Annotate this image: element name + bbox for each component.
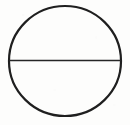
circle-diameter-figure: Circle with horizontal diameter (0, 0, 130, 125)
figure-canvas: Circle with horizontal diameter (0, 0, 130, 125)
